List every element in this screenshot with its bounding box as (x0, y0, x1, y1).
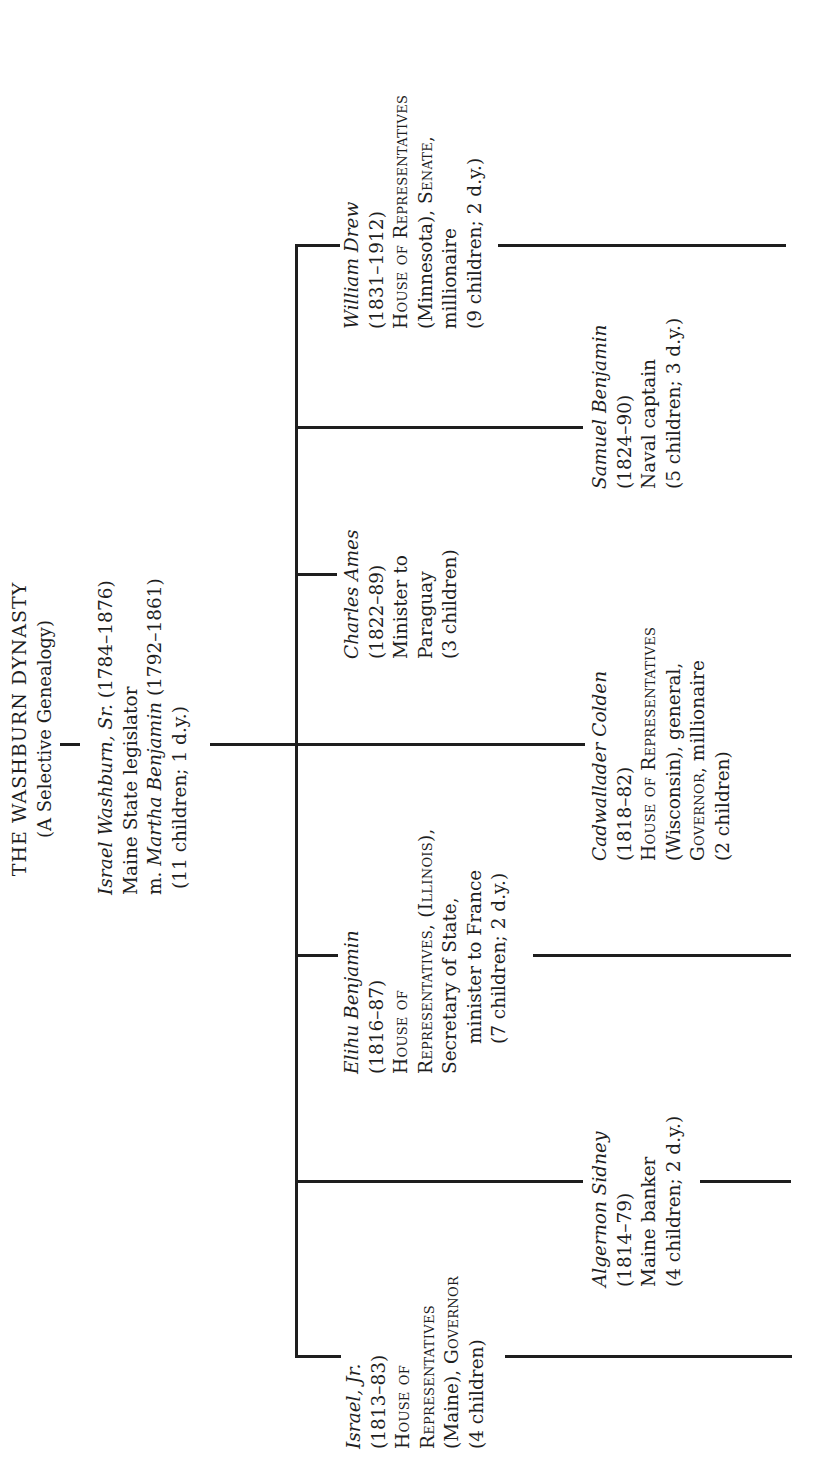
child-dates: (1824–90) (613, 318, 638, 489)
title-connector (60, 743, 80, 746)
child-algernon-sidney: Algernon Sidney (1814–79) Maine banker (… (588, 1116, 686, 1287)
genealogy-page: THE WASHBURN DYNASTY (A Selective Geneal… (0, 0, 817, 1479)
branch-elihu (295, 954, 338, 957)
title-subtitle: (A Selective Genealogy) (32, 519, 58, 939)
branch-william-continuation (498, 244, 786, 247)
child-dates: (1831–1912) (365, 95, 390, 329)
branch-israel-jr-continuation (505, 1355, 792, 1358)
child-dates: (1822–89) (365, 529, 390, 659)
child-cadwallader-colden: Cadwallader Colden (1818–82) House of Re… (588, 627, 735, 861)
parent-israel-sr: Israel Washburn, Sr. (1784–1876) Maine S… (94, 578, 192, 895)
child-children-count: (3 children) (438, 529, 463, 659)
child-name: Israel, Jr. (342, 1276, 367, 1449)
child-dates: (1813–83) (367, 1276, 392, 1449)
sibling-trunk (295, 244, 298, 1358)
parent-stem (210, 743, 585, 746)
child-name: Samuel Benjamin (588, 318, 613, 489)
child-dates: (1814–79) (613, 1116, 638, 1287)
child-dates: (1816–87) (365, 828, 390, 1074)
branch-charles (295, 573, 337, 576)
child-children-count: (5 children; 3 d.y.) (662, 318, 687, 489)
child-israel-jr: Israel, Jr. (1813–83) House of Represent… (342, 1276, 489, 1449)
parent-role: Maine State legislator (119, 578, 144, 895)
child-charles-ames: Charles Ames (1822–89) Minister to Parag… (340, 529, 463, 659)
child-dates: (1818–82) (613, 627, 638, 861)
child-name: Algernon Sidney (588, 1116, 613, 1287)
spouse-name: Martha Benjamin (144, 702, 165, 866)
child-children-count: (9 children; 2 d.y.) (463, 95, 488, 329)
child-children-count: (7 children; 2 d.y.) (487, 828, 512, 1074)
chart-title: THE WASHBURN DYNASTY (A Selective Geneal… (6, 519, 58, 939)
parent-name: Israel Washburn, Sr. (95, 704, 116, 895)
parent-children-count: (11 children; 1 d.y.) (168, 578, 193, 895)
child-name: Cadwallader Colden (588, 627, 613, 861)
branch-algernon (295, 1180, 583, 1183)
child-children-count: (4 children) (465, 1276, 490, 1449)
spouse-prefix: m. (144, 866, 165, 895)
child-name: Charles Ames (340, 529, 365, 659)
child-william-drew: William Drew (1831–1912) House of Repres… (340, 95, 487, 329)
spouse-dates: (1792–1861) (144, 578, 165, 702)
branch-elihu-continuation (533, 954, 791, 957)
child-elihu-benjamin: Elihu Benjamin (1816–87) House of Repres… (340, 828, 512, 1074)
title-main: THE WASHBURN DYNASTY (6, 519, 32, 939)
branch-william (295, 244, 340, 247)
child-children-count: (2 children) (711, 627, 736, 861)
child-samuel-benjamin: Samuel Benjamin (1824–90) Naval captain … (588, 318, 686, 489)
child-name: Elihu Benjamin (340, 828, 365, 1074)
child-name: William Drew (340, 95, 365, 329)
child-children-count: (4 children; 2 d.y.) (662, 1116, 687, 1287)
branch-israel-jr (295, 1355, 341, 1358)
parent-dates: (1784–1876) (95, 580, 116, 704)
branch-algernon-continuation (700, 1180, 791, 1183)
branch-samuel (295, 426, 583, 429)
